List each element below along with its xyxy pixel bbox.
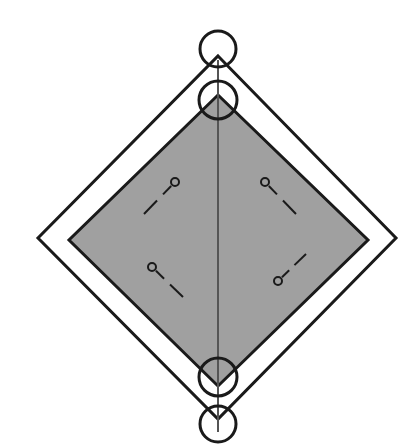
figure-canvas (0, 0, 416, 448)
diamond-figure-svg (0, 0, 416, 448)
